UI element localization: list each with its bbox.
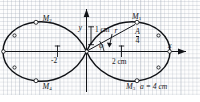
point-label-m1-base: M [132, 12, 139, 21]
horizontal-scale-label: 2 cm [112, 58, 127, 65]
point-label-m2: M2 [43, 15, 52, 24]
point-label-m1-index: 1 [139, 16, 141, 21]
marker-right-vertex [168, 50, 172, 54]
point-label-m4-index: 4 [49, 86, 51, 91]
point-label-m4: M4 [43, 83, 52, 92]
point-label-m3-index: 3 [133, 86, 135, 91]
parameter-text: a = 4 cm [140, 82, 167, 91]
parameter-label: a = 4 cm [140, 83, 167, 91]
vertical-scale-bar [88, 27, 94, 46]
marker-m3 [135, 79, 139, 83]
point-label-m3-base: M [126, 82, 133, 91]
point-label-m3: M3 [126, 83, 135, 92]
plot-artwork [0, 0, 200, 102]
marker-m4 [34, 79, 38, 83]
x-axis-label: x [168, 42, 172, 50]
marker-aux-upper-right [157, 34, 160, 37]
amplitude-denominator: 4 [135, 37, 140, 45]
amplitude-numerator: A [135, 28, 140, 36]
marker-aux-lower-left [13, 66, 16, 69]
marker-aux-lower-right [157, 66, 160, 69]
point-label-m1: M1 [132, 13, 141, 22]
x-axis [4, 49, 186, 55]
angle-phi-label: φ [99, 42, 103, 50]
marker-left-vertex [2, 50, 6, 54]
y-axis-label: y [79, 24, 83, 32]
figure-canvas: x y 1 cm 2 cm -2 φ r A 4 M2 M1 M4 M3 a =… [0, 0, 200, 102]
marker-m2 [34, 20, 38, 24]
angle-direction-arrow [107, 34, 112, 48]
point-label-m2-index: 2 [49, 18, 51, 23]
vertical-scale-label: 1 cm [95, 26, 110, 33]
marker-origin [85, 50, 88, 53]
x-negative-tick-label: -2 [51, 57, 57, 64]
marker-aux-upper-left [13, 34, 16, 37]
radius-r-label: r [115, 27, 118, 34]
amplitude-fraction: A 4 [135, 28, 140, 45]
